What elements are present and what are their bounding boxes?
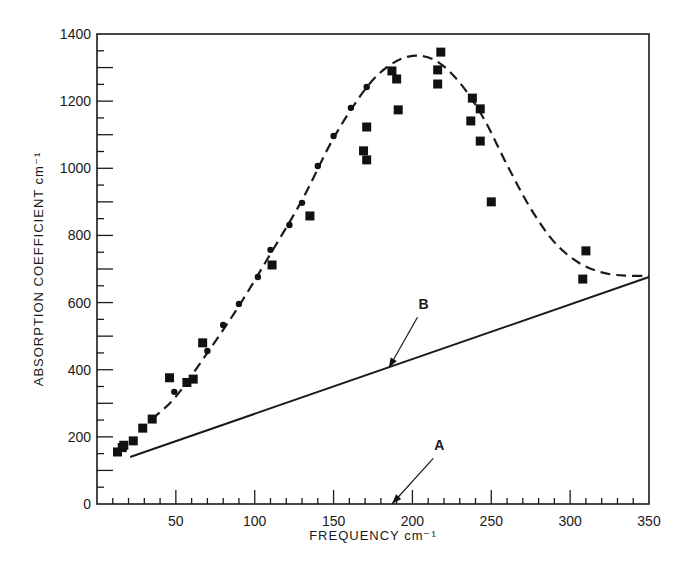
square-marker	[305, 211, 314, 220]
square-marker	[148, 415, 157, 424]
circle-marker	[267, 247, 273, 253]
square-marker	[581, 246, 590, 255]
square-marker	[487, 197, 496, 206]
x-tick-label: 300	[558, 513, 582, 529]
square-marker	[359, 146, 368, 155]
x-tick-label: 200	[401, 513, 425, 529]
square-marker	[362, 155, 371, 164]
circle-marker	[315, 163, 321, 169]
y-tick-label: 200	[68, 429, 92, 445]
y-tick-label: 600	[68, 295, 92, 311]
data-markers	[113, 48, 590, 457]
y-axis-ticks: 0200400600800100012001400	[60, 26, 113, 512]
square-marker	[198, 338, 207, 347]
circle-marker	[286, 222, 292, 228]
annotation-label-b: B	[418, 296, 428, 312]
x-tick-label: 150	[322, 513, 346, 529]
circle-marker	[330, 133, 336, 139]
y-axis-title: ABSORPTION COEFFICIENT cm⁻¹	[31, 152, 46, 387]
x-tick-label: 350	[637, 513, 661, 529]
circle-marker	[220, 322, 226, 328]
absorption-chart: 50100150200250300350 0200400600800100012…	[0, 0, 682, 568]
square-marker	[476, 104, 485, 113]
x-tick-label: 100	[243, 513, 267, 529]
annotations: BA	[389, 296, 445, 504]
square-marker	[436, 48, 445, 57]
x-tick-label: 250	[480, 513, 504, 529]
square-marker	[138, 424, 147, 433]
square-marker	[578, 275, 587, 284]
y-tick-label: 1200	[60, 93, 91, 109]
plot-border	[97, 34, 649, 504]
annotation-label-a: A	[434, 437, 444, 453]
square-marker	[466, 116, 475, 125]
square-marker	[119, 441, 128, 450]
x-axis-title: FREQUENCY cm⁻¹	[309, 528, 437, 543]
square-marker	[394, 105, 403, 114]
square-marker	[189, 375, 198, 384]
x-axis-ticks: 50100150200250300350	[113, 490, 661, 529]
y-tick-label: 1400	[60, 26, 91, 42]
circle-marker	[255, 274, 261, 280]
y-tick-label: 400	[68, 362, 92, 378]
plot-curves	[130, 56, 649, 457]
circle-marker	[204, 348, 210, 354]
y-tick-label: 1000	[60, 160, 91, 176]
square-marker	[392, 74, 401, 83]
x-tick-label: 50	[168, 513, 184, 529]
y-tick-label: 800	[68, 227, 92, 243]
square-marker	[476, 137, 485, 146]
square-marker	[362, 122, 371, 131]
square-marker	[468, 94, 477, 103]
circle-marker	[236, 301, 242, 307]
square-marker	[387, 66, 396, 75]
square-marker	[165, 373, 174, 382]
circle-marker	[348, 105, 354, 111]
circle-marker	[171, 389, 177, 395]
square-marker	[268, 260, 277, 269]
circle-marker	[299, 200, 305, 206]
square-marker	[433, 65, 442, 74]
square-marker	[129, 436, 138, 445]
y-tick-label: 0	[83, 496, 91, 512]
square-marker	[433, 80, 442, 89]
plot-frame	[97, 34, 649, 504]
circle-marker	[363, 84, 369, 90]
